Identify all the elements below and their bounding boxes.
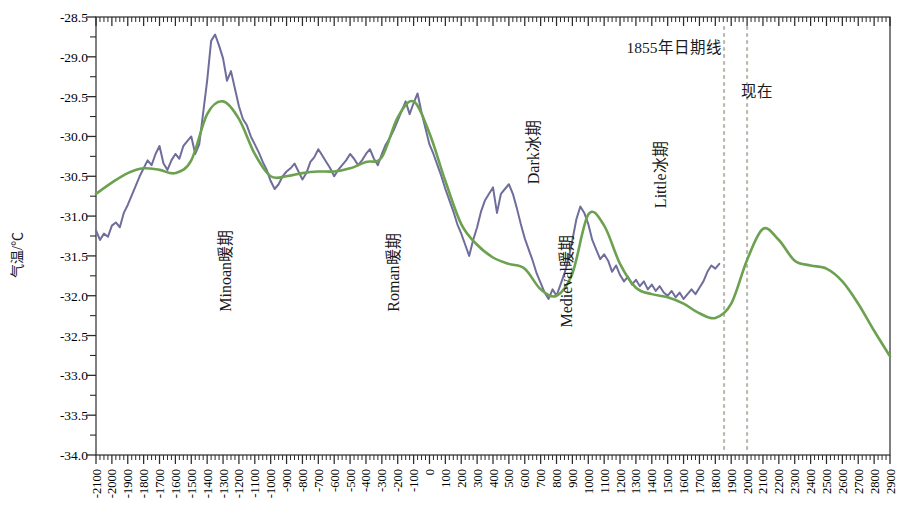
y-tick-label: -29.5 [60, 90, 88, 105]
x-tick-marks-top [96, 17, 890, 26]
x-tick-label: -1500 [185, 469, 199, 498]
x-tick-label: -800 [296, 469, 310, 492]
x-tick-label: 300 [471, 469, 485, 488]
x-tick-label: 2300 [788, 469, 802, 494]
x-tick-label: 500 [502, 469, 516, 488]
x-tick-label: 700 [534, 469, 548, 488]
x-tick-label: -1100 [248, 469, 262, 498]
x-tick-label: 1000 [582, 469, 596, 494]
x-tick-labels: -2100-2000-1900-1800-1700-1600-1500-1400… [90, 469, 898, 498]
x-tick-label: -400 [359, 469, 373, 492]
x-tick-label: 1200 [614, 469, 628, 494]
x-tick-label: -2000 [105, 469, 119, 498]
y-tick-label: -28.5 [60, 10, 88, 25]
series-line-1 [96, 35, 719, 299]
x-tick-label: -1300 [217, 469, 231, 498]
x-tick-label: 1100 [598, 469, 612, 494]
x-tick-label: -1800 [137, 469, 151, 498]
x-tick-label: 600 [518, 469, 532, 488]
x-tick-label: -1700 [153, 469, 167, 498]
y-axis-title: 气温/℃ [10, 232, 25, 278]
x-tick-label: 100 [439, 469, 453, 488]
x-tick-marks-bottom [96, 455, 890, 464]
x-tick-label: -1400 [201, 469, 215, 498]
x-tick-label: 2400 [804, 469, 818, 494]
climate-chart: 气温/℃ -28.5-29.0-29.5-30.0-30.5-31.0-31.5… [0, 0, 904, 514]
annotation-little-ice: Little冰期 [652, 141, 669, 208]
annotation-minoan: Minoan暖期 [217, 230, 234, 312]
x-tick-label: 1800 [709, 469, 723, 494]
x-tick-label: -1000 [264, 469, 278, 498]
x-tick-label: 2600 [836, 469, 850, 494]
annotation-date-line-1855: 1855年日期线 [627, 39, 722, 56]
x-tick-label: 400 [487, 469, 501, 488]
annotation-dark: Dark冰期 [525, 120, 542, 184]
x-tick-label: -1600 [169, 469, 183, 498]
x-tick-label: 2500 [820, 469, 834, 494]
annotation-present: 现在 [741, 83, 773, 100]
x-tick-label: 1400 [645, 469, 659, 494]
x-tick-label: -200 [391, 469, 405, 492]
x-tick-label: -700 [312, 469, 326, 492]
x-tick-label: 1900 [725, 469, 739, 494]
x-tick-label: 1600 [677, 469, 691, 494]
y-tick-label: -34.0 [60, 448, 88, 463]
x-tick-label: 2200 [772, 469, 786, 494]
y-axis-title-text: 气温/℃ [10, 232, 25, 278]
x-tick-label: 1700 [693, 469, 707, 494]
x-tick-label: 900 [566, 469, 580, 488]
x-tick-label: -500 [344, 469, 358, 492]
x-tick-label: 800 [550, 469, 564, 488]
x-tick-label: 200 [455, 469, 469, 488]
x-tick-label: 1300 [629, 469, 643, 494]
x-tick-label: -300 [375, 469, 389, 492]
y-tick-label: -30.5 [60, 169, 88, 184]
y-tick-label: -30.0 [60, 129, 88, 144]
x-tick-label: -2100 [90, 469, 104, 498]
annotation-medieval: Medieval暖期 [558, 235, 575, 327]
x-tick-label: 0 [423, 469, 437, 475]
y-tick-label: -33.0 [60, 368, 88, 383]
x-tick-label: 2000 [741, 469, 755, 494]
y-tick-label: -33.5 [60, 408, 88, 423]
y-tick-labels: -28.5-29.0-29.5-30.0-30.5-31.0-31.5-32.0… [60, 10, 88, 463]
x-tick-label: -1900 [121, 469, 135, 498]
x-tick-label: -900 [280, 469, 294, 492]
y-tick-label: -31.5 [60, 249, 88, 264]
chart-svg: 气温/℃ -28.5-29.0-29.5-30.0-30.5-31.0-31.5… [0, 0, 904, 514]
y-tick-label: -29.0 [60, 50, 88, 65]
annotation-roman: Roman暖期 [385, 233, 402, 311]
x-tick-label: -100 [407, 469, 421, 492]
y-tick-label: -32.5 [60, 329, 88, 344]
x-tick-label: 2100 [756, 469, 770, 494]
x-tick-label: 2700 [852, 469, 866, 494]
y-tick-label: -32.0 [60, 289, 88, 304]
y-tick-label: -31.0 [60, 209, 88, 224]
annotation-layer: Minoan暖期Roman暖期Dark冰期Medieval暖期Little冰期1… [217, 39, 773, 328]
y-tick-marks [86, 17, 96, 455]
x-tick-label: -1200 [232, 469, 246, 498]
series-line-2 [96, 101, 890, 356]
x-tick-label: 2800 [868, 469, 882, 494]
x-tick-label: -600 [328, 469, 342, 492]
x-tick-label: 1500 [661, 469, 675, 494]
x-tick-label: 2900 [884, 469, 898, 494]
